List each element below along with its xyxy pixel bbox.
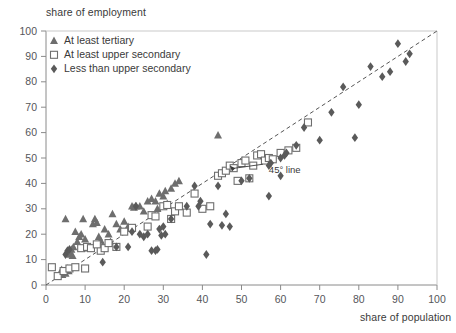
x-tick-label: 90 [392,293,404,305]
y-tick-label: 70 [25,101,37,113]
data-point [214,131,222,138]
data-point [203,250,209,259]
x-tick-label: 40 [197,293,209,305]
y-tick-label: 40 [25,177,37,189]
y-tick-label: 10 [25,253,37,265]
data-point [152,213,159,220]
data-points-layer [48,39,412,279]
x-tick-label: 80 [353,293,365,305]
x-tick-label: 10 [79,293,91,305]
data-point [317,136,323,145]
data-point [62,215,70,222]
y-tick-label: 20 [25,228,37,240]
x-tick-label: 0 [43,293,49,305]
data-point [100,258,106,267]
data-point [79,215,87,222]
legend-marker-diamond-icon [51,64,57,73]
data-point [105,240,112,247]
data-point [101,225,109,232]
data-point [379,72,385,81]
data-point [175,177,183,184]
data-point [352,133,358,142]
data-point [227,222,233,231]
data-point [108,210,116,217]
x-tick-label: 60 [275,293,287,305]
data-point [72,264,79,271]
data-point [223,209,229,218]
data-point [71,227,79,234]
data-point [82,265,89,272]
y-tick-label: 0 [31,279,37,291]
data-point [242,157,249,164]
y-tick-label: 50 [25,152,37,164]
data-point [395,39,401,48]
data-point [207,220,213,229]
x-tick-label: 20 [118,293,130,305]
annotation-label: 45° line [269,164,301,175]
data-point [112,220,120,227]
y-tick-label: 100 [19,25,37,37]
y-tick-label: 80 [25,75,37,87]
data-point [403,57,409,66]
data-point [93,241,100,248]
data-point [191,190,198,197]
data-point [164,201,171,208]
scatter-chart: share of employment share of population … [0,0,456,333]
data-point [356,100,362,109]
x-tick-label: 50 [236,293,248,305]
chart-legend: At least tertiaryAt least upper secondar… [50,34,191,74]
data-point [266,192,272,201]
legend-marker-square-icon [51,51,58,58]
legend-marker-triangle-icon [50,37,58,44]
data-point [219,221,225,230]
x-tick-label: 70 [314,293,326,305]
data-point [191,182,197,191]
data-point [144,223,151,230]
data-point [207,203,214,210]
data-point [387,67,393,76]
legend-label: At least tertiary [64,34,135,46]
data-point [125,243,131,252]
data-point [367,62,373,71]
data-point [304,119,311,126]
y-tick-label: 60 [25,126,37,138]
data-point [120,217,128,224]
data-point [175,203,182,210]
x-tick-label: 30 [157,293,169,305]
y-tick-label: 90 [25,50,37,62]
data-point [215,182,221,191]
legend-label: At least upper secondary [64,48,181,60]
data-point [328,108,334,117]
legend-label: Less than upper secondary [64,62,191,74]
series-square [48,119,311,280]
y-tick-label: 30 [25,202,37,214]
data-point [121,228,128,235]
plot-canvas: 0102030405060708090100010203040506070809… [0,0,456,333]
data-point [48,264,55,271]
x-tick-label: 100 [428,293,446,305]
